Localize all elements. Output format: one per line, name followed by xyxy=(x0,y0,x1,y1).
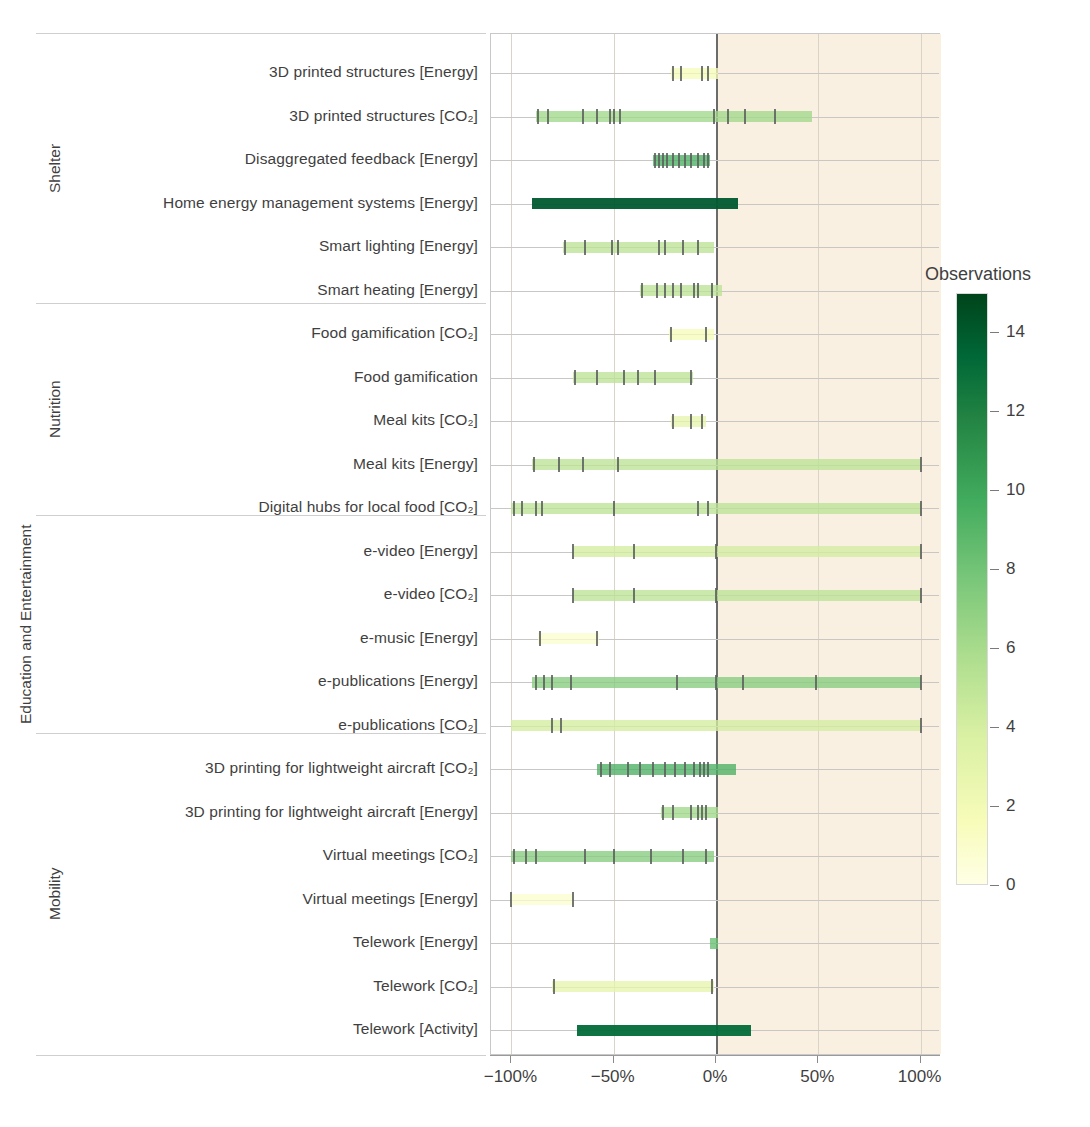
observation-tick xyxy=(697,240,699,255)
observation-tick xyxy=(600,762,602,777)
observation-tick xyxy=(572,588,574,603)
observation-tick xyxy=(707,762,709,777)
observation-tick xyxy=(920,675,922,690)
category-label: Virtual meetings [CO₂] xyxy=(323,846,478,864)
category-labels: 3D printed structures [Energy]3D printed… xyxy=(0,33,486,1055)
observation-tick xyxy=(697,501,699,516)
observation-tick xyxy=(609,109,611,124)
colorbar-tick xyxy=(990,332,999,333)
observation-tick xyxy=(658,240,660,255)
observation-tick xyxy=(525,849,527,864)
x-axis-tick-label: 100% xyxy=(898,1067,941,1087)
colorbar-tick-label: 14 xyxy=(1006,322,1025,342)
observation-tick xyxy=(672,153,674,168)
observation-tick xyxy=(596,631,598,646)
category-label: Food gamification [CO₂] xyxy=(311,324,478,342)
observation-tick xyxy=(521,501,523,516)
observation-tick xyxy=(535,501,537,516)
observation-tick xyxy=(619,109,621,124)
x-axis-tick xyxy=(613,1055,614,1063)
observation-tick xyxy=(672,283,674,298)
category-label: Meal kits [CO₂] xyxy=(373,411,478,429)
observation-density-band xyxy=(577,1025,751,1036)
observation-density-band xyxy=(536,111,812,122)
observation-density-band xyxy=(538,633,599,644)
category-label: Home energy management systems [Energy] xyxy=(163,194,478,212)
observation-tick xyxy=(684,762,686,777)
observation-tick xyxy=(680,283,682,298)
colorbar-tick-label: 8 xyxy=(1006,559,1015,579)
observation-tick xyxy=(535,675,537,690)
observation-density-band xyxy=(671,68,718,79)
observation-tick xyxy=(682,240,684,255)
observation-tick xyxy=(699,762,701,777)
observation-tick xyxy=(684,153,686,168)
observation-density-band xyxy=(511,720,920,731)
colorbar-tick-label: 6 xyxy=(1006,638,1015,658)
category-label: e-publications [CO₂] xyxy=(338,716,478,734)
observation-tick xyxy=(674,762,676,777)
observation-tick xyxy=(639,762,641,777)
colorbar-tick xyxy=(990,569,999,570)
observation-tick xyxy=(920,544,922,559)
colorbar-tick-label: 4 xyxy=(1006,717,1015,737)
category-label: Digital hubs for local food [CO₂] xyxy=(258,498,478,516)
positive-region-shading xyxy=(716,34,941,1054)
row-gridline xyxy=(491,421,939,422)
observation-tick xyxy=(705,849,707,864)
x-axis-tick xyxy=(817,1055,818,1063)
observation-tick xyxy=(510,892,512,907)
observation-tick xyxy=(623,370,625,385)
observation-tick xyxy=(596,370,598,385)
x-axis-tick-label: −50% xyxy=(591,1067,635,1087)
observation-tick xyxy=(560,718,562,733)
observation-tick xyxy=(742,675,744,690)
observation-tick xyxy=(551,675,553,690)
observation-tick xyxy=(713,109,715,124)
observation-tick xyxy=(744,109,746,124)
observation-tick xyxy=(705,327,707,342)
observation-tick xyxy=(815,675,817,690)
observation-tick xyxy=(537,109,539,124)
x-axis-line xyxy=(490,1055,940,1056)
observation-tick xyxy=(633,544,635,559)
observation-density-band xyxy=(532,459,921,470)
observation-tick xyxy=(662,153,664,168)
observation-tick xyxy=(664,762,666,777)
category-label: Telework [CO₂] xyxy=(373,977,478,995)
observation-tick xyxy=(701,805,703,820)
observation-density-band xyxy=(532,677,921,688)
observation-density-band xyxy=(573,590,921,601)
observation-tick xyxy=(611,240,613,255)
row-gridline xyxy=(491,247,939,248)
observation-tick xyxy=(558,457,560,472)
observation-tick xyxy=(715,544,717,559)
observation-tick xyxy=(551,718,553,733)
category-label: 3D printed structures [CO₂] xyxy=(289,107,478,125)
observation-tick xyxy=(570,675,572,690)
colorbar-tick xyxy=(990,490,999,491)
observation-tick xyxy=(711,979,713,994)
colorbar-tick-label: 12 xyxy=(1006,401,1025,421)
observation-tick xyxy=(584,849,586,864)
observation-tick xyxy=(609,762,611,777)
observation-tick xyxy=(513,849,515,864)
row-gridline xyxy=(491,160,939,161)
observation-tick xyxy=(641,283,643,298)
x-axis-tick-label: 0% xyxy=(703,1067,728,1087)
observation-tick xyxy=(547,109,549,124)
observation-tick xyxy=(617,457,619,472)
category-label: Smart heating [Energy] xyxy=(317,281,478,299)
observation-tick xyxy=(539,631,541,646)
colorbar-title: Observations xyxy=(925,264,1031,285)
category-label: e-video [CO₂] xyxy=(384,585,478,603)
observation-tick xyxy=(697,805,699,820)
observation-tick xyxy=(535,849,537,864)
colorbar-tick xyxy=(990,806,999,807)
category-label: Virtual meetings [Energy] xyxy=(303,890,478,908)
x-gridline xyxy=(614,34,615,1054)
observation-tick xyxy=(658,153,660,168)
observation-tick xyxy=(666,153,668,168)
observation-tick xyxy=(672,805,674,820)
observation-tick xyxy=(652,762,654,777)
